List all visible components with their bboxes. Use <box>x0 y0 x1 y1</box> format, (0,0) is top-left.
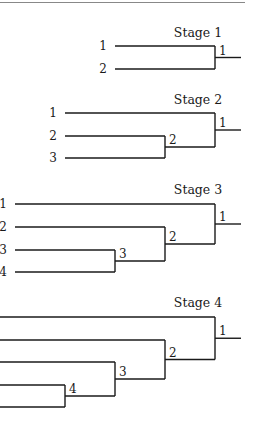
match-label: 2 <box>169 230 177 244</box>
team-label: 1 <box>0 197 7 211</box>
match-label: 1 <box>219 116 227 130</box>
team-label: 3 <box>0 243 7 257</box>
match-label: 1 <box>219 44 227 58</box>
stage-title: Stage 3 <box>174 182 222 197</box>
stage-2: Stage 221123 <box>49 92 241 165</box>
match-label: 4 <box>69 382 77 396</box>
team-label: 1 <box>99 39 107 53</box>
stage-4: Stage 4432112345 <box>0 295 241 414</box>
match-label: 1 <box>219 210 227 224</box>
match-label: 3 <box>119 365 127 379</box>
match-label: 2 <box>169 133 177 147</box>
stage-3: Stage 33211234 <box>0 182 241 279</box>
match-label: 3 <box>119 247 127 261</box>
team-label: 2 <box>49 129 57 143</box>
team-label: 4 <box>0 265 7 279</box>
stage-title: Stage 1 <box>174 25 222 40</box>
stage-1: Stage 1112 <box>99 25 241 76</box>
team-label: 3 <box>49 151 57 165</box>
team-label: 1 <box>49 106 57 120</box>
team-label: 2 <box>99 62 107 76</box>
stepladder-diagram: Stage 1112Stage 221123Stage 33211234Stag… <box>0 0 255 431</box>
stage-title: Stage 4 <box>174 295 222 310</box>
match-label: 1 <box>219 324 227 338</box>
stage-title: Stage 2 <box>174 92 222 107</box>
team-label: 2 <box>0 220 7 234</box>
match-label: 2 <box>169 346 177 360</box>
